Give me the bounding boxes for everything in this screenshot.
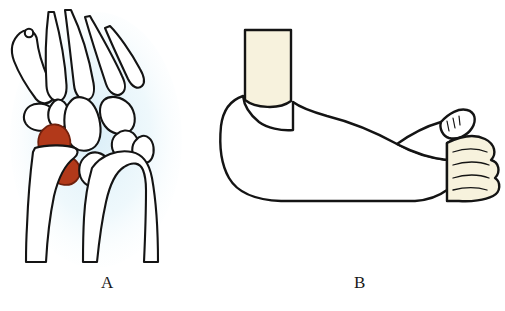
sesamoid-bone — [25, 29, 33, 37]
upper-arm-skin — [245, 30, 291, 107]
panel-a-label: A — [0, 274, 215, 291]
panel-b-label: B — [215, 274, 505, 291]
figure-root: A — [0, 0, 505, 311]
exposed-thumb-tip — [440, 110, 474, 139]
panel-b: B — [215, 0, 505, 311]
wrist-radiograph-illustration — [0, 0, 215, 270]
panel-a: A — [0, 0, 215, 311]
thumb-spica-cast-illustration — [215, 0, 505, 270]
exposed-fingers — [447, 136, 499, 201]
